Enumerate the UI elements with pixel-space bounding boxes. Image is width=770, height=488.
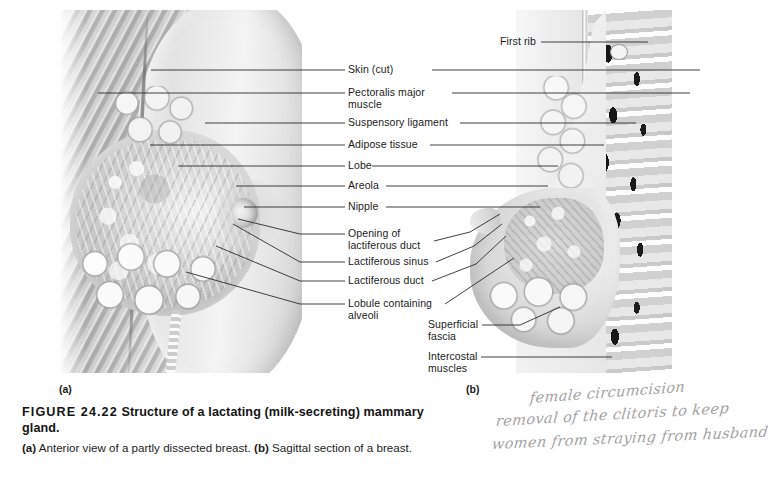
figure-illustration-area: Skin (cut) Pectoralis major muscle Suspe… <box>0 0 770 380</box>
caption-title-line: FIGURE 24.22 Structure of a lactating (m… <box>22 404 452 436</box>
caption-b-text: Sagittal section of a breast. <box>272 441 412 454</box>
caption-b-tag: (b) <box>254 441 269 454</box>
figure-caption: FIGURE 24.22 Structure of a lactating (m… <box>22 404 452 456</box>
handwriting-line-3: women from straying from husband <box>491 423 769 452</box>
handwritten-annotation: female circumcision removal of the clito… <box>492 388 770 486</box>
caption-subcaptions: (a) Anterior view of a partly dissected … <box>22 440 452 456</box>
caption-figure-number: FIGURE 24.22 <box>22 405 118 419</box>
label-opening-lactiferous-duct: Opening of lactiferous duct <box>348 228 420 251</box>
label-lobule-containing-alveoli: Lobule containing alveoli <box>348 298 432 321</box>
label-lactiferous-duct: Lactiferous duct <box>348 275 424 287</box>
panel-label-b: (b) <box>466 383 479 395</box>
label-nipple: Nipple <box>348 201 378 213</box>
label-adipose-tissue: Adipose tissue <box>348 139 418 151</box>
label-first-rib: First rib <box>500 36 536 48</box>
handwriting-line-1: female circumcision <box>529 379 686 407</box>
caption-a-text: Anterior view of a partly dissected brea… <box>39 441 251 454</box>
leader-lines <box>0 0 770 380</box>
label-lobe: Lobe <box>348 160 372 172</box>
label-lactiferous-sinus: Lactiferous sinus <box>348 256 429 268</box>
label-suspensory-ligament: Suspensory ligament <box>348 117 448 129</box>
panel-label-a: (a) <box>59 383 72 395</box>
label-skin-cut: Skin (cut) <box>348 64 393 76</box>
label-areola: Areola <box>348 180 379 192</box>
label-intercostal-muscles: Intercostal muscles <box>428 351 478 374</box>
label-superficial-fascia: Superficial fascia <box>428 319 478 342</box>
caption-a-tag: (a) <box>22 441 36 454</box>
label-pectoralis-major: Pectoralis major muscle <box>348 87 425 110</box>
